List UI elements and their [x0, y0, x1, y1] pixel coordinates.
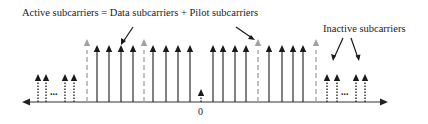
data-subcarrier-arrow — [300, 45, 306, 102]
data-subcarrier-arrow — [175, 45, 181, 102]
inactive-subcarrier-arrow — [43, 74, 49, 102]
data-subcarrier-arrow — [163, 45, 169, 102]
ellipsis-right: ... — [341, 86, 349, 97]
frequency-axis — [22, 99, 388, 106]
ellipsis-left: ... — [50, 86, 58, 97]
data-subcarrier-arrow — [243, 45, 249, 102]
pilot-subcarrier-arrow — [84, 39, 90, 102]
data-subcarrier-arrow — [210, 45, 216, 102]
data-subcarrier-arrow — [130, 45, 136, 102]
zero-tick-label: 0 — [198, 106, 203, 117]
inactive-subcarrier-arrow — [362, 74, 368, 102]
active-subcarriers-label: Active subcarriers = Data subcarriers + … — [22, 7, 258, 18]
data-subcarrier-arrow — [266, 45, 272, 102]
axis-right-arrowhead-icon — [380, 99, 388, 106]
data-subcarrier-arrow — [106, 45, 112, 102]
data-subcarrier-arrow — [279, 45, 285, 102]
inactive-subcarrier-arrow — [324, 74, 330, 102]
data-subcarrier-arrow — [118, 45, 124, 102]
data-subcarrier-arrow — [220, 45, 226, 102]
inactive-subcarrier-arrow — [353, 74, 359, 102]
inactive-subcarrier-arrow — [71, 74, 77, 102]
pilot-subcarrier-arrow — [255, 39, 261, 102]
inactive-subcarrier-arrow — [62, 74, 68, 102]
data-subcarrier-arrow — [94, 45, 100, 102]
dc-subcarrier — [198, 89, 204, 102]
inactive-subcarriers-label: Inactive subcarriers — [323, 23, 406, 34]
inactive-callout-arrow-right — [351, 38, 358, 58]
active-callout-arrow-right — [236, 27, 252, 38]
data-subcarrier-arrow — [290, 45, 296, 102]
inactive-subcarrier-arrow — [334, 74, 340, 102]
data-subcarrier-arrow — [150, 45, 156, 102]
dc-subcarrier-arrow — [198, 89, 204, 102]
active-callout-arrow-left — [123, 27, 133, 42]
data-subcarrier-arrow — [232, 45, 238, 102]
inactive-callout-arrow-left — [334, 38, 343, 58]
pilot-subcarrier-arrow — [141, 39, 147, 102]
pilot-subcarrier-arrow — [313, 39, 319, 102]
data-subcarrier-arrow — [187, 45, 193, 102]
inactive-subcarrier-arrow — [35, 74, 41, 102]
subcarrier-diagram — [0, 0, 428, 124]
axis-left-arrowhead-icon — [22, 99, 30, 106]
